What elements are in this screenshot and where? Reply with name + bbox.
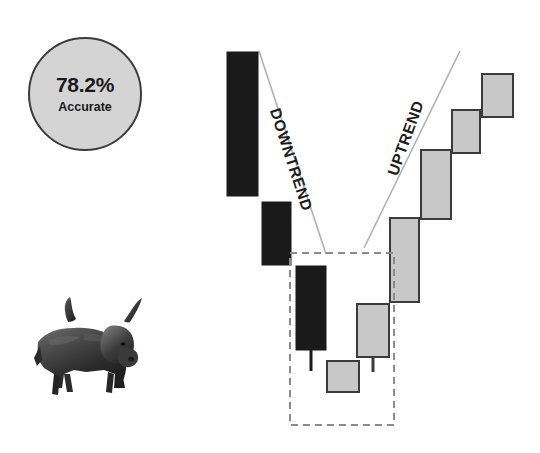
candle-bullish-1 bbox=[327, 361, 359, 392]
candle-bearish-3 bbox=[296, 266, 326, 371]
candle-bearish-1 bbox=[227, 52, 258, 196]
candle-bullish-4 bbox=[421, 150, 451, 219]
candle-bullish-5 bbox=[452, 110, 480, 153]
candle-bullish-6 bbox=[482, 74, 513, 117]
candle-bullish-2 bbox=[357, 304, 389, 372]
candle-bearish-2 bbox=[262, 202, 291, 265]
candlestick-chart bbox=[0, 0, 540, 453]
chart-canvas: 78.2% Accurate bbox=[0, 0, 540, 453]
